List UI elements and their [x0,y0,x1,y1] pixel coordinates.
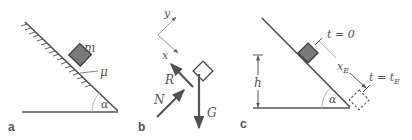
panel-label-b: b [138,120,145,134]
friction-force-arrow [171,64,193,87]
height-label: h [254,76,262,90]
distance-arrow-lower [350,73,366,88]
force-label-r: R [164,73,174,87]
panel-a: m μ α a [8,22,118,134]
panel-b: y x R N G b [138,7,217,134]
distance-label: xE [337,60,349,75]
axis-x-label: x [162,49,169,62]
friction-label: μ [100,65,108,79]
free-body-block [193,61,213,81]
panel-label-c: c [240,117,247,131]
distance-tick-start [315,38,322,45]
distance-line-upper [319,41,336,58]
inclined-plane-figure: m μ α a y x R N G b [0,0,412,140]
mass-block-start [298,43,318,63]
end-time-label: t = tE [369,71,400,86]
mass-block-end-dashed [349,90,369,110]
friction-leader-line [80,71,98,73]
angle-label: α [101,98,109,111]
force-label-g: G [207,106,217,120]
axis-y-label: y [163,7,171,20]
panel-label-a: a [8,120,15,134]
angle-label: α [329,93,337,106]
start-time-label: t = 0 [327,28,355,41]
angle-arc [92,93,100,112]
panel-c: xE t = 0 t = tE h α c [240,18,400,131]
mass-label: m [84,41,95,55]
force-label-n: N [153,93,165,107]
